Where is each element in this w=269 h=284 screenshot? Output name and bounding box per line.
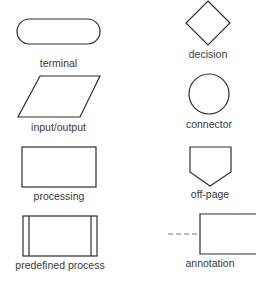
annotation-bracket bbox=[200, 214, 256, 254]
off-page-label: off-page bbox=[191, 188, 229, 200]
predefined-process-label: predefined process bbox=[15, 259, 104, 271]
annotation-label: annotation bbox=[185, 257, 234, 269]
off-page-shape bbox=[190, 147, 231, 186]
symbol-input-output: input/output bbox=[18, 76, 100, 133]
symbol-off-page: off-page bbox=[190, 147, 231, 200]
input-output-label: input/output bbox=[31, 121, 86, 133]
processing-shape bbox=[22, 147, 96, 187]
symbol-decision: decision bbox=[186, 1, 230, 60]
flowchart-symbols-diagram: terminal decision input/output connector… bbox=[0, 0, 269, 284]
symbol-annotation: annotation bbox=[168, 214, 256, 269]
connector-shape bbox=[189, 74, 229, 114]
decision-shape bbox=[186, 1, 230, 45]
symbol-connector: connector bbox=[186, 74, 233, 130]
terminal-shape bbox=[17, 19, 100, 44]
decision-label: decision bbox=[189, 48, 228, 60]
processing-label: processing bbox=[34, 190, 85, 202]
connector-label: connector bbox=[186, 118, 233, 130]
terminal-label: terminal bbox=[40, 57, 77, 69]
symbol-terminal: terminal bbox=[17, 19, 100, 69]
predefined-process-shape bbox=[23, 216, 97, 256]
symbol-predefined-process: predefined process bbox=[15, 216, 104, 271]
input-output-shape bbox=[18, 76, 100, 117]
symbol-processing: processing bbox=[22, 147, 96, 202]
